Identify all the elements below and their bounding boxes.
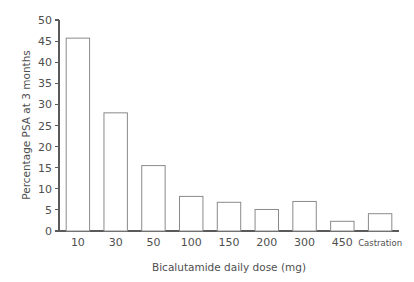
x-tick-label: 10 <box>71 236 85 249</box>
y-tick-label: 25 <box>38 120 52 133</box>
y-tick-label: 20 <box>38 141 52 154</box>
bar <box>66 38 89 231</box>
bars-group <box>66 38 392 231</box>
y-axis-title: Percentage PSA at 3 months <box>20 50 32 200</box>
bar <box>331 221 354 231</box>
bar <box>104 113 127 231</box>
bar <box>142 166 165 231</box>
y-tick-label: 40 <box>38 56 52 69</box>
x-tick-label: 300 <box>294 236 315 249</box>
y-tick-label: 15 <box>38 162 52 175</box>
bar <box>293 201 316 231</box>
bar-chart: 05101520253035404550 1030501001502003004… <box>0 0 414 282</box>
x-tick-label: 50 <box>146 236 160 249</box>
y-tick-label: 35 <box>38 77 52 90</box>
x-tick-label: 100 <box>181 236 202 249</box>
x-tick-label: 450 <box>332 236 353 249</box>
y-tick-label: 0 <box>45 225 52 238</box>
bar <box>368 214 391 231</box>
y-tick-label: 30 <box>38 98 52 111</box>
bar <box>255 209 278 231</box>
x-tick-label: 30 <box>109 236 123 249</box>
x-axis-tick-labels: 103050100150200300450Castration <box>71 236 402 249</box>
x-axis-title: Bicalutamide daily dose (mg) <box>152 261 306 273</box>
y-tick-label: 50 <box>38 14 52 27</box>
y-tick-label: 5 <box>45 204 52 217</box>
x-tick-label: Castration <box>358 238 402 248</box>
chart-container: 05101520253035404550 1030501001502003004… <box>0 0 414 282</box>
bar <box>217 202 240 231</box>
y-tick-label: 45 <box>38 35 52 48</box>
x-tick-label: 200 <box>256 236 277 249</box>
y-axis-tick-labels: 05101520253035404550 <box>38 14 52 238</box>
x-tick-label: 150 <box>219 236 240 249</box>
y-tick-label: 10 <box>38 183 52 196</box>
bar <box>180 196 203 231</box>
